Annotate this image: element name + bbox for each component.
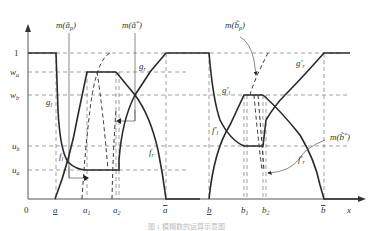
xtick-a-low: a xyxy=(53,205,58,215)
xtick-a2: a2 xyxy=(113,205,121,216)
arrow-ap-icon xyxy=(84,175,89,181)
dashed-b-rise xyxy=(250,53,268,95)
curve-gl xyxy=(28,53,58,110)
ytick-wb: wb xyxy=(10,90,19,101)
horizontal-guides xyxy=(28,53,350,170)
ytick-wa: wa xyxy=(10,67,19,78)
x-axis-label: x xyxy=(346,205,351,215)
dashed-a-fall xyxy=(97,72,108,170)
fuzzy-number-diagram: 1 wa wb ub ua 0 a a1 a2 a b b1 b2 b x m(… xyxy=(0,0,372,231)
x-tick-labels: 0 a a1 a2 a b b1 b2 b x xyxy=(24,205,351,216)
m-bstar-arrow xyxy=(268,140,325,173)
label-fr-prime: f′r xyxy=(298,154,305,165)
curve-fr xyxy=(116,72,200,199)
label-m-bstar: m(b̃*) xyxy=(330,132,350,142)
ytick-1: 1 xyxy=(14,48,19,58)
xtick-a-high: a xyxy=(163,205,168,215)
label-m-ap: m(ãp) xyxy=(56,20,76,31)
xtick-0: 0 xyxy=(24,205,29,215)
xtick-b1: b1 xyxy=(241,205,249,216)
annotations: m(ãp) m(ã*) m(b̃p) m(b̃*) xyxy=(56,20,350,142)
dashed-a-fall2 xyxy=(112,110,116,199)
label-fl: fl xyxy=(59,151,64,162)
y-axis-arrow-icon xyxy=(25,24,31,32)
xtick-b2: b2 xyxy=(262,205,270,216)
figure-caption: 图 1 模糊数的运算示意图 xyxy=(148,222,225,231)
vertical-guides xyxy=(56,53,324,199)
label-fl-prime: f′l xyxy=(212,125,218,136)
label-m-astar: m(ã*) xyxy=(122,20,142,30)
xtick-b-high: b xyxy=(321,205,326,215)
curve-gr xyxy=(119,53,186,160)
label-gr-prime: g′r xyxy=(296,58,305,69)
label-gr: gr xyxy=(139,61,147,72)
label-fr: fr xyxy=(149,147,155,158)
label-gl: gl xyxy=(46,97,53,108)
y-tick-labels: 1 wa wb ub ua xyxy=(10,48,20,176)
fuzzy-a-curves xyxy=(28,53,200,199)
arrow-astar-icon xyxy=(116,118,121,124)
m-bp-arrow xyxy=(240,37,256,75)
xtick-b-low: b xyxy=(207,205,212,215)
label-m-bp: m(b̃p) xyxy=(225,20,245,31)
ytick-ub: ub xyxy=(12,141,20,152)
curve-labels: gl gr fl fr g′l g′r f′l f′r xyxy=(46,58,305,165)
label-gl-prime: g′l xyxy=(222,85,230,96)
x-axis-arrow-icon xyxy=(358,196,366,202)
xtick-a1: a1 xyxy=(83,205,91,216)
axes xyxy=(25,24,366,202)
ytick-ua: ua xyxy=(12,165,20,176)
